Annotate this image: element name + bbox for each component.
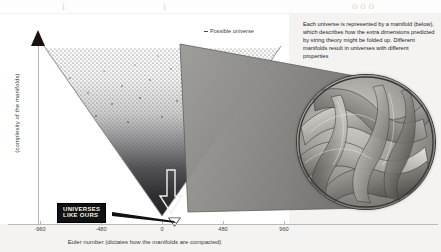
callout-universes-like-ours: UNIVERSES LIKE OURS xyxy=(57,203,106,223)
ghost-glyph: o o o xyxy=(352,0,374,11)
page-top-strip xyxy=(0,0,441,13)
x-tick-mark xyxy=(40,221,41,225)
possible-universe-annotation: Possible universe xyxy=(204,28,254,34)
chart-panel: (complexity of the manifolds) xyxy=(0,14,289,224)
x-tick-label-3: 480 xyxy=(203,226,243,232)
x-axis-title: Euler number (dictates how the manifolds… xyxy=(0,239,289,245)
possible-universe-label: Possible universe xyxy=(210,28,254,34)
x-tick-label-0: -960 xyxy=(20,226,60,232)
x-tick-label-1: -480 xyxy=(81,226,121,232)
leader-dash-icon xyxy=(204,31,208,32)
ghost-glyph: i xyxy=(62,1,65,12)
y-axis-line xyxy=(38,44,39,224)
calabi-yau-manifold-icon xyxy=(296,74,436,210)
x-tick-mark xyxy=(223,221,224,225)
callout-line-2: LIKE OURS xyxy=(63,212,100,218)
ghost-glyph: i xyxy=(163,1,166,12)
x-tick-mark xyxy=(284,221,285,225)
string-theory-landscape-figure: i i o o o (complexity of the manifolds) xyxy=(0,0,441,252)
x-tick-label-4: 960 xyxy=(264,226,304,232)
manifold-caption: Each universe is represented by a manifo… xyxy=(303,20,435,60)
x-tick-label-2: 0 xyxy=(142,226,182,232)
arrow-down-icon xyxy=(158,169,184,215)
y-axis-title: (complexity of the manifolds) xyxy=(14,47,20,179)
callout-leader-line xyxy=(112,210,178,224)
